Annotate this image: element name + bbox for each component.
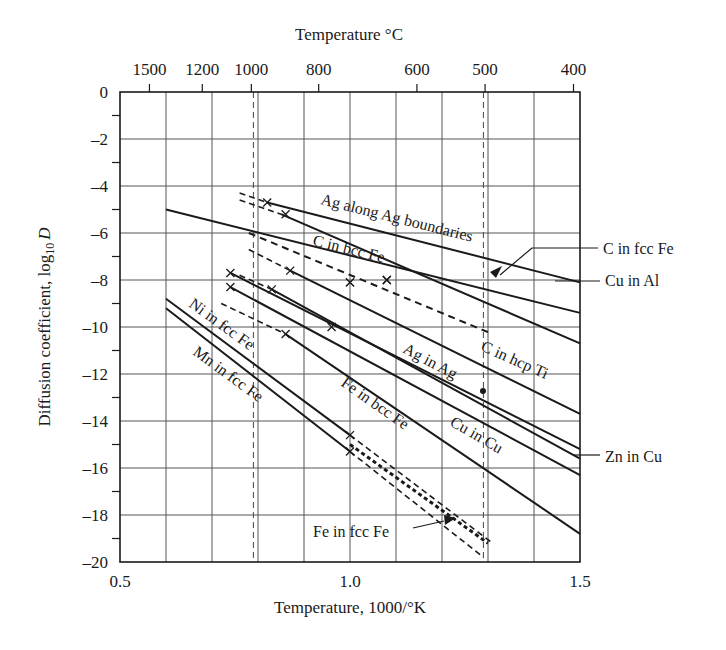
series-dashed-extension xyxy=(249,249,290,270)
y-tick-label: –14 xyxy=(82,412,109,431)
top-tick-label: 1000 xyxy=(234,60,268,79)
leader-c-fcc-fe xyxy=(500,248,598,275)
arrow-head-c-fcc-fe xyxy=(490,266,502,278)
top-tick-label: 800 xyxy=(306,60,332,79)
data-point-dot xyxy=(480,388,486,394)
top-tick-label: 1200 xyxy=(185,60,219,79)
top-tick-label: 400 xyxy=(561,60,587,79)
series-line xyxy=(230,287,580,475)
leader-lines xyxy=(413,248,600,528)
cross-marker xyxy=(282,330,290,338)
y-tick-label: 0 xyxy=(100,83,109,102)
y-tick-label: –4 xyxy=(90,177,109,196)
y-tick-label: –20 xyxy=(82,553,109,572)
series-dashed-extension xyxy=(240,200,281,214)
y-tick-label: –6 xyxy=(90,224,108,243)
y-tick-label: –12 xyxy=(82,365,109,384)
y-tick-label: –18 xyxy=(82,506,109,525)
x-tick-label: 0.5 xyxy=(109,572,130,591)
y-tick-label: –10 xyxy=(82,318,109,337)
x-tick-label: 1.5 xyxy=(569,572,590,591)
cross-marker xyxy=(268,285,276,293)
y-tick-label: –16 xyxy=(82,459,109,478)
series-dashed-extension xyxy=(240,275,272,289)
series-dashed-extension xyxy=(350,452,483,558)
label-c-bcc-fe: C in bcc Fe xyxy=(311,231,386,265)
top-tick-label: 1500 xyxy=(132,60,166,79)
label-zn-cu: Zn in Cu xyxy=(605,448,662,465)
top-tick-label: 600 xyxy=(404,60,430,79)
label-c-fcc-fe: C in fcc Fe xyxy=(603,240,674,257)
x-tick-label: 1.0 xyxy=(339,572,360,591)
y-tick-label: –8 xyxy=(90,271,108,290)
top-tick-label: 500 xyxy=(472,60,498,79)
label-c-hcp-ti: C in hcp Ti xyxy=(478,337,551,383)
label-fe-bcc-fe: Fe in bcc Fe xyxy=(338,374,412,433)
cross-marker xyxy=(226,269,234,277)
leader-fe-fcc-fe xyxy=(413,521,444,528)
cross-marker xyxy=(286,267,294,275)
label-fe-fcc-fe: Fe in fcc Fe xyxy=(313,523,389,540)
x-axis-title: Temperature, 1000/°K xyxy=(274,598,427,617)
diffusion-chart: 0–2–4–6–8–10–12–14–16–18–200.51.01.51500… xyxy=(0,0,726,650)
y-axis-title: Diffusion coefficient, log10D xyxy=(35,227,57,427)
label-cu-al: Cu in Al xyxy=(605,272,660,289)
top-axis-title: Temperature °C xyxy=(295,25,403,44)
y-tick-label: –2 xyxy=(90,130,108,149)
cross-marker xyxy=(226,283,234,291)
